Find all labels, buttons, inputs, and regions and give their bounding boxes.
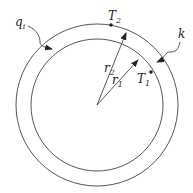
heat-flux-arrow [28, 26, 52, 49]
inner-temp-point [149, 70, 153, 74]
shell-diagram: qi k T2 T1 r2 r1 [0, 0, 193, 193]
outer-temp-point [109, 23, 113, 27]
heat-flux-label: qi [15, 15, 26, 31]
conductivity-label: k [178, 27, 185, 41]
outer-temp-label: T2 [108, 9, 121, 25]
diagram-svg: qi k T2 T1 r2 r1 [0, 0, 193, 193]
conductivity-arrow [157, 42, 180, 62]
inner-temp-label: T1 [137, 72, 150, 88]
inner-radius-label: r1 [112, 73, 123, 89]
